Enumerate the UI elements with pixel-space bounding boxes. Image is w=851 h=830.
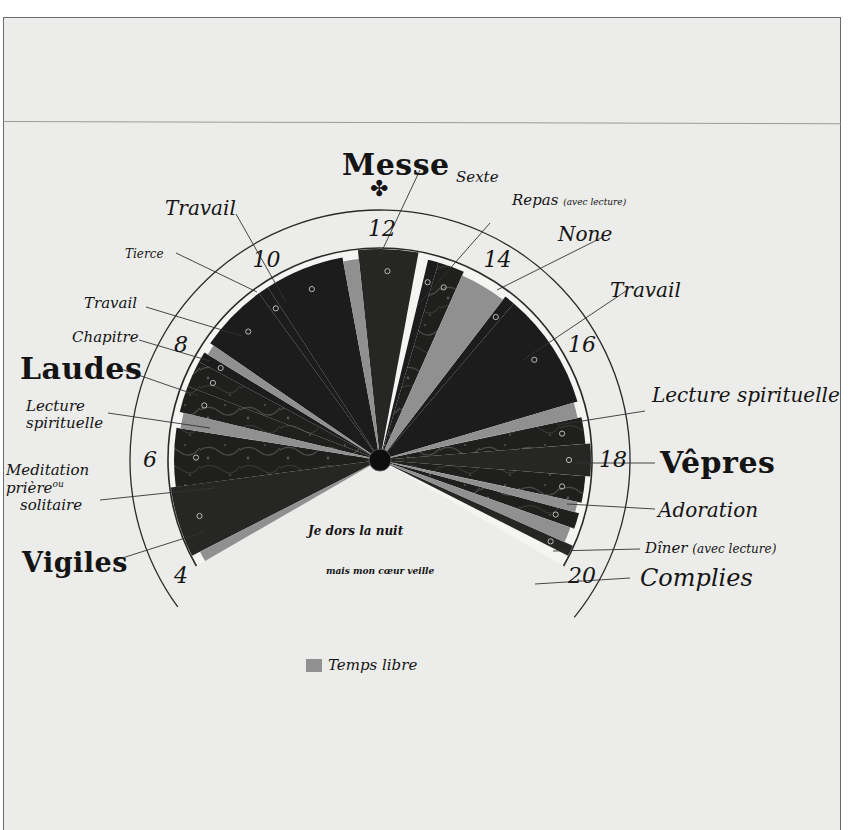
center-hub (369, 449, 391, 471)
hour-label-6: 6 (143, 449, 157, 471)
meditation-line-3: solitaire (6, 498, 89, 513)
callout-vigiles: Vigiles (22, 549, 128, 576)
monastic-day-clock (0, 0, 851, 830)
callout-sexte: Sexte (456, 170, 499, 185)
callout-meditation: Meditation prièreou solitaire (6, 463, 89, 513)
meditation-ou: ou (53, 479, 64, 489)
callout-none: None (558, 224, 612, 244)
meditation-line-1: Meditation (6, 463, 89, 478)
hour-label-12: 12 (368, 218, 396, 240)
legend: Temps libre (306, 656, 417, 674)
diner-note: (avec lecture) (692, 542, 776, 556)
legend-swatch-free-time (306, 659, 322, 672)
callout-travail-late-morning: Travail (165, 198, 236, 218)
callout-diner: Dîner (avec lecture) (645, 541, 776, 556)
callout-lecture-spirituelle-morning: Lecturespirituelle (26, 399, 103, 431)
night-text-line-1: Je dors la nuit (308, 525, 403, 537)
clock-group (130, 210, 630, 617)
callout-lecture-spirituelle-evening: Lecture spirituelle (652, 385, 840, 405)
quatrefoil-cross-icon: ✤ (370, 178, 388, 200)
hour-label-10: 10 (253, 249, 281, 271)
meditation-line-2: prière (6, 479, 53, 497)
hour-label-4: 4 (174, 565, 188, 587)
repas-note: (avec lecture) (563, 197, 626, 207)
callout-travail-morning: Travail (84, 296, 137, 311)
callout-travail-afternoon: Travail (610, 280, 681, 300)
callout-complies: Complies (640, 566, 753, 590)
hour-label-16: 16 (568, 334, 596, 356)
messe-title: Messe (342, 150, 450, 180)
callout-laudes: Laudes (20, 354, 142, 384)
repas-label: Repas (512, 191, 558, 209)
hour-label-20: 20 (568, 565, 596, 587)
callout-tierce: Tierce (125, 248, 164, 260)
lecture-line-2: spirituelle (26, 416, 103, 431)
legend-label: Temps libre (328, 656, 417, 674)
night-text-line-2: mais mon cœur veille (326, 567, 434, 576)
diner-label: Dîner (645, 539, 688, 557)
hour-label-8: 8 (174, 334, 188, 356)
callout-repas: Repas (avec lecture) (512, 193, 626, 208)
lecture-line-1: Lecture (26, 399, 103, 414)
hour-label-18: 18 (599, 449, 627, 471)
hour-label-14: 14 (484, 249, 512, 271)
callout-vepres: Vêpres (660, 448, 775, 478)
callout-adoration: Adoration (658, 500, 758, 520)
callout-chapitre: Chapitre (72, 330, 139, 345)
